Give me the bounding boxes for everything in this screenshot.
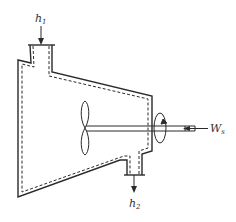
fan-impeller-icon	[81, 101, 89, 155]
shaft	[86, 126, 195, 131]
control-volume-diagram: h1 h2 Ws	[0, 0, 236, 222]
inlet-enthalpy-label: h1	[35, 12, 47, 26]
shaft-work-label: Ws	[210, 122, 225, 136]
outlet-arrow	[131, 175, 137, 193]
vessel-outline	[18, 45, 152, 197]
inlet-arrow	[38, 26, 44, 45]
rotation-arrow-icon	[154, 113, 167, 143]
outlet-enthalpy-label: h2	[129, 197, 141, 211]
control-surface-dashed	[22, 46, 148, 192]
